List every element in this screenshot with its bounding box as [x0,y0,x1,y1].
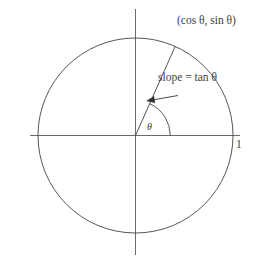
slope-label: slope = tan θ [158,72,217,84]
unit-circle-diagram [0,0,259,261]
point-coordinates-label: (cos θ, sin θ) [177,15,236,27]
theta-angle-label: θ [147,122,152,132]
angle-arc [150,104,171,136]
slope-pointer-arrowhead [146,96,155,103]
unit-circle-figure: (cos θ, sin θ) slope = tan θ θ 1 [0,0,259,261]
unit-radius-label: 1 [236,139,242,151]
radius-line [136,46,176,135]
